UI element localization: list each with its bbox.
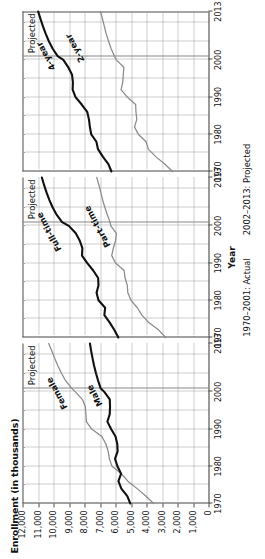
y-axis-tick <box>53 503 54 507</box>
y-axis-tick <box>22 503 23 507</box>
figure-frame: Enrollment (in thousands) ProjectedFemal… <box>0 0 265 559</box>
y-axis-tick-label: 6,000 <box>111 510 120 533</box>
x-axis-tick-label: 1980 <box>213 290 222 310</box>
y-axis-tick-label: 5,000 <box>126 510 135 533</box>
y-axis-tick-label: 10,000 <box>49 510 58 538</box>
y-axis-tick <box>146 503 147 507</box>
x-axis-tick-label: 2013 <box>213 1 222 21</box>
series-line-part-time <box>96 177 165 337</box>
series-lines <box>22 11 208 171</box>
chart-panel-attendance: ProjectedFull-timePart-time <box>22 177 208 337</box>
x-axis-tick <box>208 262 212 263</box>
x-axis-tick-label: 1980 <box>213 124 222 144</box>
plot-area: ProjectedFemaleMaleProjectedFull-timePar… <box>22 11 208 503</box>
x-axis-tick <box>208 336 212 337</box>
y-axis-tick-label: 7,000 <box>95 510 104 533</box>
y-axis-tick-label: 1,000 <box>188 510 197 533</box>
y-axis-tick <box>100 503 101 507</box>
enrollment-chart: Enrollment (in thousands) ProjectedFemal… <box>0 0 265 559</box>
x-axis-tick <box>208 10 212 11</box>
series-line-full-time <box>41 177 117 337</box>
x-axis-tick-label: 1990 <box>213 252 222 272</box>
y-axis-tick <box>69 503 70 507</box>
x-axis-tick <box>208 170 212 171</box>
x-axis-tick-label: 1970 <box>213 493 222 513</box>
x-axis-tick <box>208 299 212 300</box>
x-axis-tick-label: 1990 <box>213 418 222 438</box>
chart-panel-institution: Projected4-year2-year <box>22 11 208 171</box>
x-axis-tick-label: 2000 <box>213 381 222 401</box>
caption-projected: 2002–2013: Projected <box>241 143 251 234</box>
x-axis-tick-label: 1970 <box>213 327 222 347</box>
x-axis-tick <box>208 224 212 225</box>
x-axis-tick-label: 1980 <box>213 456 222 476</box>
x-axis-title: Year <box>226 246 236 268</box>
x-axis-tick <box>208 502 212 503</box>
y-axis-tick-label: 9,000 <box>64 510 73 533</box>
y-axis-tick <box>131 503 132 507</box>
y-axis-tick <box>193 503 194 507</box>
y-axis-tick-label: 0 <box>204 510 213 515</box>
y-axis-tick <box>177 503 178 507</box>
caption-actual: 1970–2001: Actual <box>241 258 251 337</box>
series-line-2-year <box>100 11 172 171</box>
series-lines <box>22 343 208 503</box>
y-axis-tick-label: 2,000 <box>173 510 182 533</box>
y-axis-tick-label: 4,000 <box>142 510 151 533</box>
x-axis-tick <box>208 176 212 177</box>
series-line-4-year <box>38 11 111 171</box>
x-axis-tick <box>208 342 212 343</box>
x-axis-tick-label: 1990 <box>213 86 222 106</box>
series-lines <box>22 177 208 337</box>
x-axis-tick <box>208 133 212 134</box>
series-line-male <box>89 343 129 503</box>
y-axis-tick-label: 8,000 <box>80 510 89 533</box>
x-axis-tick-label: 2000 <box>213 49 222 69</box>
y-axis-tick-label: 3,000 <box>157 510 166 533</box>
x-axis-tick <box>208 428 212 429</box>
x-axis-line <box>208 11 209 503</box>
y-axis-tick-label: 12,000 <box>18 510 27 538</box>
y-axis-tick <box>208 503 209 507</box>
x-axis-tick <box>208 58 212 59</box>
x-axis-tick-label: 1970 <box>213 161 222 181</box>
y-axis-tick <box>115 503 116 507</box>
x-axis-tick-label: 2000 <box>213 215 222 235</box>
y-axis-tick <box>162 503 163 507</box>
y-axis-tick-label: 11,000 <box>33 510 42 538</box>
series-line-female <box>48 343 153 503</box>
x-axis-tick <box>208 96 212 97</box>
chart-panel-sex: ProjectedFemaleMale <box>22 343 208 503</box>
x-axis-tick <box>208 465 212 466</box>
y-axis-tick <box>38 503 39 507</box>
y-axis-tick <box>84 503 85 507</box>
x-axis-tick <box>208 390 212 391</box>
